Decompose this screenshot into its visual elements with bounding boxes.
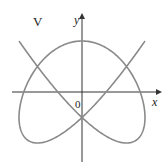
x-axis-label: x — [152, 96, 157, 108]
y-axis-arrow-icon — [79, 13, 85, 19]
lissajous-plot — [0, 0, 165, 167]
origin-label: 0 — [75, 98, 81, 110]
y-axis-label: y — [74, 14, 79, 26]
figure-label: V — [33, 16, 42, 28]
